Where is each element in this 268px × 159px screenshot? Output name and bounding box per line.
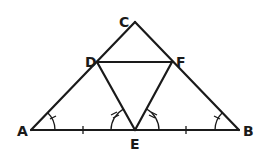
angle-arc-a bbox=[48, 113, 55, 130]
geometry-diagram: A B C D E F bbox=[0, 0, 268, 159]
label-point-b: B bbox=[243, 123, 254, 139]
angle-arc-e-right bbox=[147, 109, 159, 130]
angle-arc-e-left bbox=[111, 109, 123, 130]
label-point-d: D bbox=[85, 54, 97, 70]
segment-bc bbox=[135, 22, 239, 130]
label-point-a: A bbox=[17, 123, 28, 139]
label-point-f: F bbox=[176, 54, 186, 70]
angle-arc-b bbox=[215, 113, 222, 130]
segment-ef bbox=[135, 62, 172, 130]
segment-ac bbox=[31, 22, 135, 130]
segment-de bbox=[97, 62, 135, 130]
label-point-c: C bbox=[119, 14, 129, 30]
label-point-e: E bbox=[130, 136, 140, 152]
